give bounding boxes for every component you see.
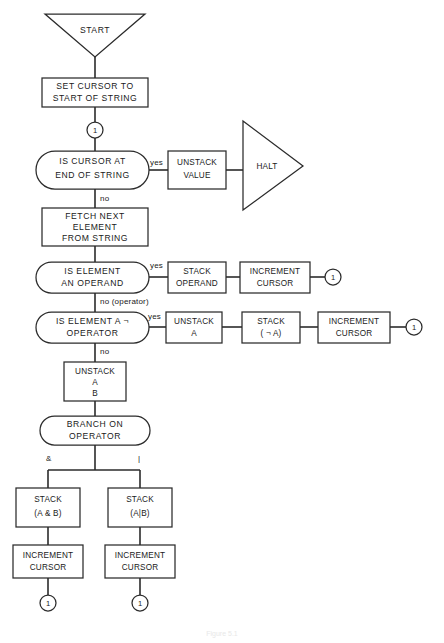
stack-or-line1: STACK <box>126 495 154 504</box>
increment-cursor-1-line1: INCREMENT <box>250 267 300 276</box>
increment-cursor-3-line2: CURSOR <box>30 563 67 572</box>
edge-label-branch-or: | <box>138 454 140 463</box>
is-element-an-operand-line2: AN OPERAND <box>61 278 123 288</box>
connector-top: 1 <box>87 122 103 138</box>
node-stack-not-a: STACK ( ¬ A) <box>242 312 300 343</box>
increment-cursor-4-line1: INCREMENT <box>115 551 165 560</box>
node-fetch-next: FETCH NEXT ELEMENT FROM STRING <box>42 208 148 246</box>
edge-label-yes-1: yes <box>150 158 163 167</box>
is-element-an-operand-line1: IS ELEMENT <box>64 266 121 276</box>
node-increment-cursor-4: INCREMENT CURSOR <box>105 545 175 578</box>
fetch-next-line1: FETCH NEXT <box>65 211 125 221</box>
unstack-value-line1: UNSTACK <box>177 158 217 167</box>
connector-right-2: 1 <box>406 319 422 335</box>
set-cursor-line2: START OF STRING <box>53 93 138 103</box>
set-cursor-line1: SET CURSOR TO <box>56 81 133 91</box>
is-cursor-at-end-line2: END OF STRING <box>55 170 129 180</box>
unstack-a-b-line1: UNSTACK <box>75 367 115 376</box>
node-stack-operand: STACK OPERAND <box>168 262 226 293</box>
connector-bottom-2: 1 <box>132 595 148 611</box>
connector-bottom-1: 1 <box>40 595 56 611</box>
edge-label-branch-and: & <box>46 454 52 463</box>
node-stack-and: STACK (A & B) <box>16 488 80 527</box>
branch-on-operator-line1: BRANCH ON <box>67 419 124 429</box>
node-is-cursor-at-end: IS CURSOR AT END OF STRING <box>36 151 149 189</box>
node-stack-or: STACK (A|B) <box>108 488 172 527</box>
edge-label-yes-3: yes <box>148 312 161 321</box>
stack-and-line2: (A & B) <box>34 509 61 518</box>
stack-and-box <box>16 488 80 527</box>
stack-not-a-line2: ( ¬ A) <box>261 329 282 338</box>
start-triangle-shape <box>45 14 145 57</box>
edge-label-yes-2: yes <box>150 261 163 270</box>
stack-and-line1: STACK <box>34 495 62 504</box>
is-element-a-not-operator-line2: OPERATOR <box>67 328 119 338</box>
unstack-a-line1: UNSTACK <box>174 317 214 326</box>
connector-bottom-2-label: 1 <box>138 599 142 608</box>
unstack-a-line2: A <box>191 329 197 338</box>
node-branch-on-operator: BRANCH ON OPERATOR <box>40 416 150 445</box>
node-start: START <box>45 14 145 57</box>
node-is-element-a-not-operator: IS ELEMENT A ¬ OPERATOR <box>36 312 149 343</box>
connector-right-1-label: 1 <box>331 273 335 282</box>
connector-bottom-1-label: 1 <box>46 599 50 608</box>
stack-or-box <box>108 488 172 527</box>
node-increment-cursor-3: INCREMENT CURSOR <box>13 545 83 578</box>
edge-label-no-1: no <box>100 194 110 203</box>
figure-caption: Figure 5.1 <box>206 630 238 638</box>
is-element-a-not-operator-line1: IS ELEMENT A ¬ <box>56 316 129 326</box>
unstack-value-box <box>168 151 226 189</box>
stack-not-a-line1: STACK <box>257 317 285 326</box>
connector-top-label: 1 <box>93 126 97 135</box>
node-unstack-value: UNSTACK VALUE <box>168 151 226 189</box>
branch-on-operator-line2: OPERATOR <box>69 431 121 441</box>
start-label: START <box>80 25 110 35</box>
increment-cursor-4-line2: CURSOR <box>122 563 159 572</box>
flowchart-diagram: START SET CURSOR TO START OF STRING 1 IS… <box>0 0 444 643</box>
edge-label-no-operator: no (operator) <box>100 297 149 306</box>
node-increment-cursor-2: INCREMENT CURSOR <box>318 312 390 343</box>
increment-cursor-3-line1: INCREMENT <box>23 551 73 560</box>
stack-or-line2: (A|B) <box>130 509 150 518</box>
is-cursor-at-end-line1: IS CURSOR AT <box>59 156 126 166</box>
unstack-value-line2: VALUE <box>183 171 211 180</box>
node-increment-cursor-1: INCREMENT CURSOR <box>240 262 310 293</box>
increment-cursor-2-line2: CURSOR <box>336 329 373 338</box>
connector-right-2-label: 1 <box>412 323 416 332</box>
stack-operand-line2: OPERAND <box>176 279 218 288</box>
increment-cursor-1-line2: CURSOR <box>257 279 294 288</box>
unstack-a-b-line3: B <box>92 389 98 398</box>
unstack-a-b-line2: A <box>92 378 98 387</box>
node-unstack-a: UNSTACK A <box>166 312 222 343</box>
fetch-next-line3: FROM STRING <box>62 233 128 243</box>
edge-label-no-2: no <box>100 347 110 356</box>
connector-right-1: 1 <box>325 269 341 285</box>
halt-label: HALT <box>256 162 277 171</box>
increment-cursor-2-line1: INCREMENT <box>329 317 379 326</box>
node-halt: HALT <box>243 121 303 210</box>
node-unstack-a-b: UNSTACK A B <box>64 362 126 401</box>
fetch-next-line2: ELEMENT <box>73 222 118 232</box>
stack-operand-line1: STACK <box>183 267 211 276</box>
node-is-element-an-operand: IS ELEMENT AN OPERAND <box>36 262 149 293</box>
node-set-cursor: SET CURSOR TO START OF STRING <box>42 78 148 107</box>
